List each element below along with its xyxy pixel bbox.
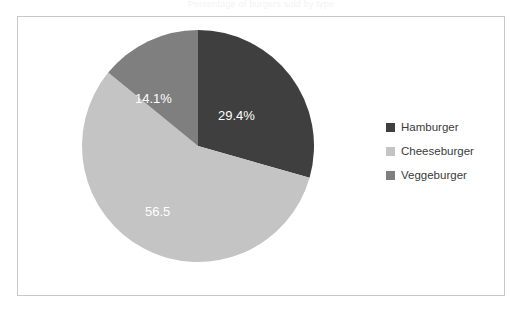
clipped-title-strip: Percentage of burgers sold by type	[0, 0, 522, 9]
legend-swatch-veggeburger	[386, 171, 395, 180]
legend-swatch-hamburger	[386, 123, 395, 132]
legend-label-veggeburger: Veggeburger	[401, 169, 467, 181]
pie-data-label-cheeseburger: 56.5	[145, 205, 170, 218]
legend-item-veggeburger[interactable]: Veggeburger	[386, 163, 498, 187]
pie-data-label-hamburger: 29.4%	[218, 109, 255, 122]
legend-item-hamburger[interactable]: Hamburger	[386, 115, 498, 139]
pie-chart: 29.4% 14.1% 56.5	[82, 29, 314, 263]
pie-slice-group	[82, 30, 314, 262]
chart-frame: 29.4% 14.1% 56.5 Hamburger Cheeseburger …	[17, 16, 505, 296]
legend-label-hamburger: Hamburger	[401, 121, 459, 133]
chart-legend: Hamburger Cheeseburger Veggeburger	[386, 115, 498, 187]
legend-item-cheeseburger[interactable]: Cheeseburger	[386, 139, 498, 163]
legend-label-cheeseburger: Cheeseburger	[401, 145, 474, 157]
plot-area: 29.4% 14.1% 56.5 Hamburger Cheeseburger …	[18, 17, 504, 295]
legend-swatch-cheeseburger	[386, 147, 395, 156]
pie-chart-svg	[82, 29, 314, 263]
pie-data-label-veggeburger: 14.1%	[135, 92, 172, 105]
